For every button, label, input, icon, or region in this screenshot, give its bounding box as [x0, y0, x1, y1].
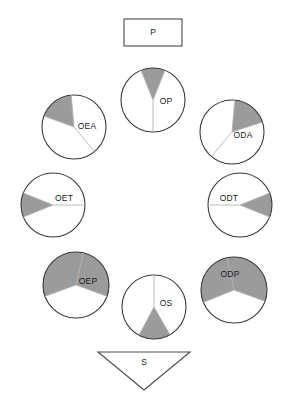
- diagram-svg: P OPOEAODAOETODTOEPOSODP S: [0, 0, 287, 406]
- circle-node-oet[interactable]: OET: [21, 173, 85, 237]
- circle-label-oet: OET: [55, 193, 73, 203]
- node-s[interactable]: S: [98, 352, 190, 390]
- node-p-label: P: [150, 27, 156, 37]
- circle-node-oda[interactable]: ODA: [200, 100, 264, 164]
- circle-label-op: OP: [160, 96, 173, 106]
- circle-label-odt: ODT: [220, 193, 239, 203]
- circle-node-odt[interactable]: ODT: [208, 173, 272, 237]
- circle-node-odp[interactable]: ODP: [201, 257, 267, 323]
- circle-nodes-group: OPOEAODAOETODTOEPOSODP: [21, 68, 272, 339]
- circle-node-oea[interactable]: OEA: [42, 95, 106, 159]
- circle-label-oda: ODA: [233, 130, 252, 140]
- circle-node-oep[interactable]: OEP: [43, 252, 109, 318]
- diagram-canvas: P OPOEAODAOETODTOEPOSODP S: [0, 0, 287, 406]
- circle-node-op[interactable]: OP: [121, 68, 185, 132]
- node-s-label: S: [141, 357, 147, 367]
- circle-node-os[interactable]: OS: [122, 275, 186, 339]
- circle-label-oea: OEA: [78, 121, 97, 131]
- circle-label-os: OS: [160, 298, 173, 308]
- node-p[interactable]: P: [124, 19, 182, 46]
- circle-label-oep: OEP: [79, 276, 98, 286]
- circle-label-odp: ODP: [220, 269, 239, 279]
